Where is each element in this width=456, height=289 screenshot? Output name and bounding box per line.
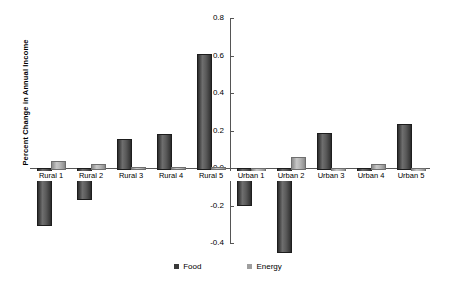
y-tick-mark bbox=[230, 168, 234, 169]
bar-food-urban-5 bbox=[397, 124, 412, 170]
y-axis-title: Percent Change in Annual Income bbox=[21, 18, 30, 188]
bar-energy-rural-5 bbox=[211, 167, 226, 170]
chart-legend: Food Energy bbox=[0, 262, 456, 271]
bar-energy-urban-4 bbox=[371, 164, 386, 170]
legend-label: Food bbox=[183, 262, 201, 271]
bar-energy-rural-3 bbox=[131, 167, 146, 170]
bar-energy-rural-4 bbox=[171, 167, 186, 170]
legend-item-food: Food bbox=[174, 262, 201, 271]
y-tick-label: -0.4 bbox=[194, 238, 224, 247]
y-tick-label: 0.8 bbox=[194, 13, 224, 22]
plot-area: 0.80.60.40.20.0-0.2-0.4 Rural 1Rural 2Ru… bbox=[30, 18, 430, 243]
bar-energy-rural-2 bbox=[91, 164, 106, 170]
y-tick-mark bbox=[230, 131, 234, 132]
y-tick-mark bbox=[230, 18, 234, 19]
bar-food-urban-3 bbox=[317, 133, 332, 170]
legend-item-energy: Energy bbox=[247, 262, 281, 271]
y-tick-mark bbox=[230, 243, 234, 244]
bar-energy-rural-1 bbox=[51, 161, 66, 171]
legend-label: Energy bbox=[256, 262, 281, 271]
y-tick-label: -0.2 bbox=[194, 201, 224, 210]
bar-energy-urban-2 bbox=[291, 157, 306, 170]
y-tick-mark bbox=[230, 93, 234, 94]
legend-swatch-icon bbox=[247, 264, 252, 269]
y-tick-mark bbox=[230, 56, 234, 57]
bar-chart: Percent Change in Annual Income 0.80.60.… bbox=[0, 0, 456, 289]
y-tick-mark bbox=[230, 206, 234, 207]
bar-food-rural-3 bbox=[117, 139, 132, 170]
legend-swatch-icon bbox=[174, 264, 179, 269]
bar-food-rural-5 bbox=[197, 54, 212, 170]
category-label-urban-5: Urban 5 bbox=[386, 171, 436, 181]
bar-food-rural-4 bbox=[157, 134, 172, 170]
